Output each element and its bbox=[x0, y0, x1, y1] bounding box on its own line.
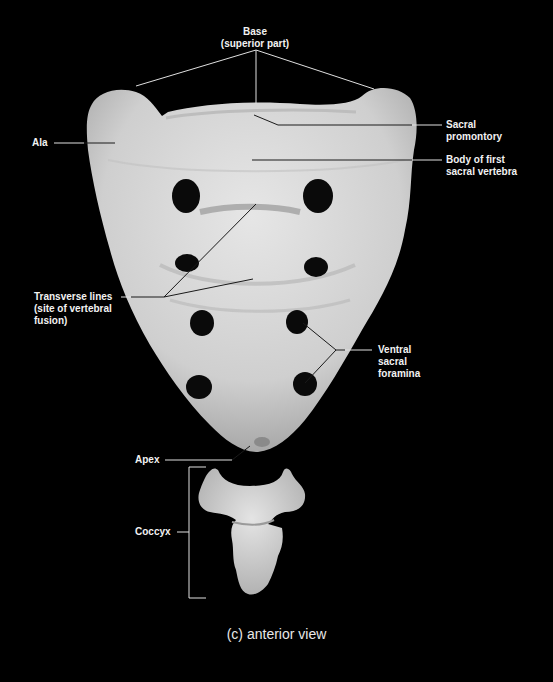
sacrum-coccyx-illustration bbox=[0, 0, 553, 682]
coccyx-bone bbox=[198, 468, 305, 594]
label-apex: Apex bbox=[135, 454, 159, 466]
label-ala: Ala bbox=[32, 137, 48, 149]
label-ventral-sacral-foramina: Ventral sacral foramina bbox=[378, 344, 420, 380]
figure-caption: (c) anterior view bbox=[0, 626, 553, 642]
label-body-first-sacral-vertebra: Body of first sacral vertebra bbox=[446, 154, 517, 178]
label-sacral-promontory: Sacral promontory bbox=[446, 119, 502, 143]
label-coccyx: Coccyx bbox=[135, 526, 171, 538]
sacrum-bone bbox=[87, 88, 417, 452]
label-transverse-lines: Transverse lines (site of vertebral fusi… bbox=[34, 291, 112, 327]
label-base: Base (superior part) bbox=[205, 26, 305, 50]
